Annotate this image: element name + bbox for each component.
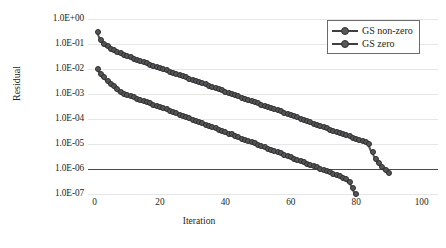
data-point-marker — [350, 185, 356, 191]
gridline — [88, 94, 438, 95]
data-point-marker — [95, 29, 101, 35]
gridline — [88, 119, 438, 120]
data-point-marker — [366, 141, 372, 147]
y-axis-tick-label: 1.0E-05 — [26, 138, 84, 148]
data-point-marker — [386, 170, 392, 176]
x-axis-title: Iteration — [0, 215, 446, 226]
gridline — [88, 194, 438, 195]
legend-item-label: GS non-zero — [362, 25, 413, 36]
y-axis-tick-labels: 1.0E+001.0E-011.0E-021.0E-031.0E-041.0E-… — [24, 19, 84, 194]
y-axis-tick-label: 1.0E-01 — [26, 38, 84, 48]
y-axis-tick-label: 1.0E+00 — [26, 13, 84, 23]
x-axis-tick-labels: 020406080100 — [88, 197, 438, 213]
legend-marker-icon — [332, 39, 358, 49]
legend-item[interactable]: GS non-zero — [332, 24, 413, 37]
x-axis-tick-label: 40 — [205, 197, 245, 207]
legend-item-label: GS zero — [362, 38, 395, 49]
x-axis-tick-label: 20 — [140, 197, 180, 207]
gridline — [88, 69, 438, 70]
y-axis-tick-label: 1.0E-03 — [26, 88, 84, 98]
x-axis-tick-label: 0 — [75, 197, 115, 207]
y-axis-title: Residual — [11, 44, 22, 124]
y-axis-tick-label: 1.0E-06 — [26, 163, 84, 173]
legend-item[interactable]: GS zero — [332, 37, 413, 50]
legend-marker-icon — [332, 26, 358, 36]
legend: GS non-zeroGS zero — [327, 20, 420, 54]
residual-convergence-chart: Residual 1.0E+001.0E-011.0E-021.0E-031.0… — [0, 0, 446, 248]
x-axis-tick-label: 60 — [271, 197, 311, 207]
x-axis-title-text: Iteration — [183, 215, 216, 226]
x-axis-tick-label: 100 — [402, 197, 442, 207]
y-axis-tick-label: 1.0E-02 — [26, 63, 84, 73]
data-point-marker — [370, 149, 376, 155]
y-axis-tick-label: 1.0E-04 — [26, 113, 84, 123]
x-axis-tick-label: 80 — [336, 197, 376, 207]
